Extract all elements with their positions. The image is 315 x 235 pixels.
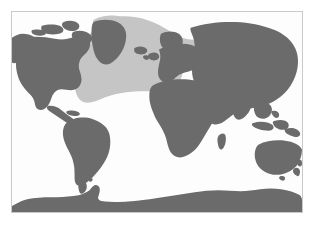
figure-root: [0, 0, 315, 235]
world-map: [12, 12, 302, 212]
figure-caption: [7, 224, 247, 233]
map-frame: [11, 11, 303, 213]
